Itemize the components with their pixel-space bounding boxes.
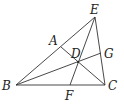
points <box>77 61 79 63</box>
geometry-diagram: B C E A F G D <box>0 0 124 104</box>
point-D <box>77 61 79 63</box>
label-C: C <box>108 79 117 93</box>
segment-BG <box>16 53 101 85</box>
label-D: D <box>70 47 81 61</box>
segments <box>16 17 105 85</box>
label-E: E <box>89 3 99 17</box>
segment-BE <box>16 17 95 85</box>
label-A: A <box>48 34 58 48</box>
label-F: F <box>64 89 74 103</box>
label-B: B <box>1 79 11 93</box>
label-G: G <box>104 47 114 61</box>
